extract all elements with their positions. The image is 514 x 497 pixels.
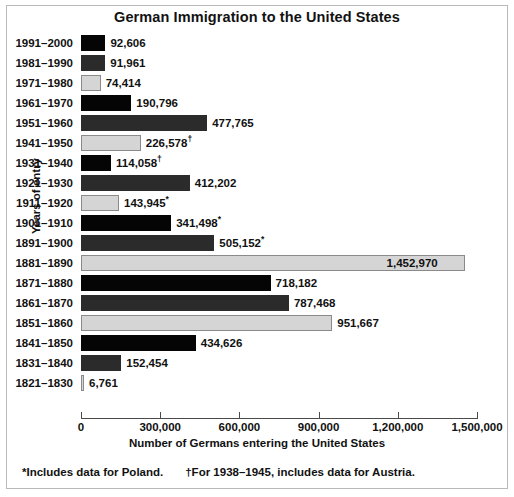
bar-row: 718,182 [81,273,477,293]
bar-row: 226,578† [81,133,477,153]
x-axis-tick-label: 900,000 [298,421,340,433]
x-axis-title: Number of Germans entering the United St… [0,437,514,449]
x-axis-tick-label: 0 [78,421,84,433]
bar [81,55,105,71]
footnote-asterisk: *Includes data for Poland. [22,466,163,478]
y-axis-tick-label: 1981–1990 [15,53,73,73]
y-axis-tick-label: 1901–1910 [15,213,73,233]
y-axis-tick-label: 1891–1900 [15,233,73,253]
bar-value-label: 505,152* [214,235,264,251]
bar-row: 6,761 [81,373,477,393]
y-axis-tick-label: 1911–1920 [16,193,73,213]
bar [81,275,271,291]
bar-value-label: 114,058† [111,155,162,171]
bar-row: 143,945* [81,193,477,213]
x-axis-tick [160,412,161,418]
bar [81,235,214,251]
x-axis-tick [81,412,82,418]
bar-value-label: 6,761 [84,375,118,391]
bar [81,155,111,171]
y-axis-tick-label: 1871–1880 [15,273,73,293]
bar-row: 341,498* [81,213,477,233]
bar-value-label: 152,454 [121,355,168,371]
bar-row: 434,626 [81,333,477,353]
bar-row: 74,414 [81,73,477,93]
y-axis-tick-label: 1931–1940 [15,153,73,173]
bar [81,175,190,191]
bar-value-label: 1,452,970 [387,255,438,271]
x-axis-tick [239,412,240,418]
bar-row: 152,454 [81,353,477,373]
bar-value-label: 143,945* [119,195,169,211]
y-axis-tick-label: 1851–1860 [15,313,73,333]
y-axis-tick-label: 1991–2000 [15,33,73,53]
y-axis-tick-label: 1961–1970 [15,93,73,113]
bar-value-label: 434,626 [196,335,243,351]
bar-value-label: 92,606 [105,35,145,51]
x-axis-tick-label: 1,200,000 [372,421,423,433]
bar [81,315,332,331]
x-axis-tick-label: 300,000 [139,421,181,433]
bar-rows: 92,60691,96174,414190,796477,765226,578†… [81,33,477,414]
y-axis-category-labels: 1991–20001981–19901971–19801961–19701951… [0,33,77,414]
bar [81,355,121,371]
bar [81,215,171,231]
bar-value-label: 341,498* [171,215,221,231]
bar-row: 787,468 [81,293,477,313]
bar-value-label: 74,414 [101,75,141,91]
bar-row: 1,452,970 [81,253,477,273]
y-axis-tick-label: 1841–1850 [15,333,73,353]
bar [81,95,131,111]
bar [81,195,119,211]
x-axis-tick-label: 600,000 [219,421,261,433]
bar-row: 92,606 [81,33,477,53]
bar [81,295,289,311]
x-axis-tick [398,412,399,418]
x-axis-line [81,418,478,419]
y-axis-tick-label: 1941–1950 [15,133,73,153]
y-axis-tick-label: 1821–1830 [15,373,73,393]
y-axis-tick-label: 1831–1840 [15,353,73,373]
bar-value-label: 412,202 [190,175,237,191]
footnote-dagger: †For 1938–1945, includes data for Austri… [163,466,415,478]
bar-value-label: 477,765 [207,115,254,131]
bar-value-label: 226,578† [141,135,192,151]
bar-value-label: 190,796 [131,95,178,111]
y-axis-tick-label: 1951–1960 [15,113,73,133]
y-axis-tick-label: 1921–1930 [15,173,73,193]
bar-row: 91,961 [81,53,477,73]
plot-area: 92,60691,96174,414190,796477,765226,578†… [81,33,477,414]
bar-row: 505,152* [81,233,477,253]
bar-row: 412,202 [81,173,477,193]
bar-row: 114,058† [81,153,477,173]
bar-value-label: 951,667 [332,315,379,331]
bar [81,35,105,51]
x-axis-tick [319,412,320,418]
x-axis-tick [477,412,478,418]
chart-footnotes: *Includes data for Poland.†For 1938–1945… [22,466,415,478]
bar-row: 951,667 [81,313,477,333]
bar [81,75,101,91]
bar-value-label: 91,961 [105,55,145,71]
bar [81,335,196,351]
x-axis-tick-label: 1,500,000 [451,421,502,433]
y-axis-tick-label: 1971–1980 [15,73,73,93]
y-axis-tick-label: 1861–1870 [15,293,73,313]
y-axis-tick-label: 1881–1890 [15,253,73,273]
bar [81,115,207,131]
bar-value-label: 787,468 [289,295,336,311]
chart-figure: German Immigration to the United States … [0,0,514,497]
chart-title: German Immigration to the United States [0,9,514,25]
bar-value-label: 718,182 [271,275,318,291]
bar-row: 477,765 [81,113,477,133]
bar [81,135,141,151]
bar-row: 190,796 [81,93,477,113]
